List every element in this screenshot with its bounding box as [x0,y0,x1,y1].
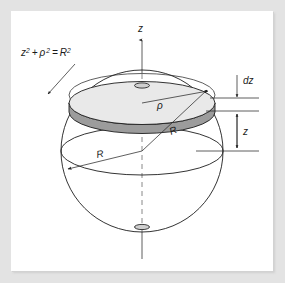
dz-label: dz [243,75,254,86]
sphere-disk-diagram: ρ R R [11,11,273,271]
dz-dimension-group: dz [237,75,254,97]
equator-radius-arrow [68,151,142,169]
equation-sup-R: 2 [66,47,71,54]
south-pole-marker [135,224,150,229]
rho-label: ρ [156,100,163,111]
equation-sup-rho: 2 [45,47,50,54]
z-axis-label: z [137,23,143,34]
z-dimension-label: z [242,126,248,137]
equation-annotation-group: z2+ρ2=R2 [20,47,75,94]
equation-base-rho: ρ [39,47,46,58]
figure-panel: ρ R R [11,11,273,271]
z-dimension-group: z [237,114,248,148]
figure-outer-frame: ρ R R [0,0,285,283]
equation-sup-z: 2 [25,47,30,54]
equation-label: z2+ρ2=R2 [20,47,71,58]
north-pole-marker [135,83,150,88]
equator-radius-label: R [95,148,104,160]
disk-element-group [69,82,215,134]
equation-operator-plus: + [32,47,38,58]
equation-base-R: R [60,47,67,58]
equation-equals: = [52,47,58,58]
